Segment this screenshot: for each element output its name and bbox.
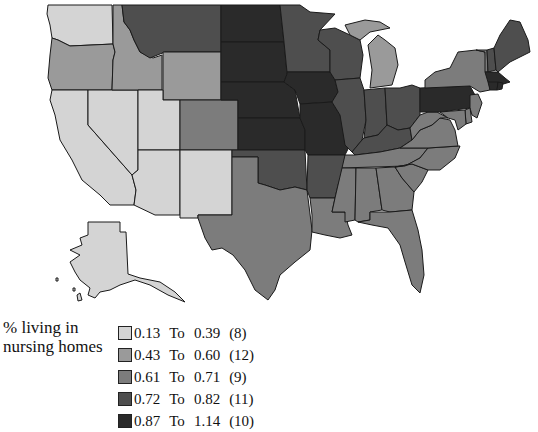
legend-item: 0.61 To 0.71 (9): [118, 366, 254, 388]
state-NM: [180, 150, 232, 218]
legend-low: 0.61: [134, 369, 160, 386]
legend-count: (8): [229, 325, 247, 342]
legend-swatch: [118, 370, 132, 384]
us-choropleth-map: [0, 0, 538, 432]
legend-to: To: [169, 413, 185, 430]
legend-low: 0.87: [134, 413, 160, 430]
legend-item: 0.43 To 0.60 (12): [118, 344, 254, 366]
state-RI: [497, 82, 503, 90]
legend-high: 1.14: [194, 413, 220, 430]
state-SD: [221, 42, 287, 82]
legend-count: (10): [229, 413, 254, 430]
legend: 0.13 To 0.39 (8) 0.43 To 0.60 (12) 0.61 …: [118, 322, 254, 432]
state-HI: [56, 278, 82, 301]
legend-high: 0.60: [194, 347, 220, 364]
state-KS: [238, 118, 305, 150]
state-ME: [494, 20, 530, 72]
legend-title-line2: nursing homes: [3, 337, 103, 356]
legend-title: % living in nursing homes: [3, 318, 103, 356]
state-NY: [425, 50, 490, 92]
state-PA: [420, 86, 475, 112]
legend-swatch: [118, 348, 132, 362]
legend-item: 0.72 To 0.82 (11): [118, 388, 254, 410]
state-WY: [163, 52, 221, 100]
legend-low: 0.72: [134, 391, 160, 408]
legend-count: (11): [229, 391, 253, 408]
legend-high: 0.82: [194, 391, 220, 408]
legend-count: (9): [229, 369, 247, 386]
legend-high: 0.39: [194, 325, 220, 342]
legend-swatch: [118, 392, 132, 406]
legend-title-line1: % living in: [3, 318, 103, 337]
state-FL: [358, 210, 424, 293]
legend-swatch: [118, 326, 132, 340]
legend-low: 0.43: [134, 347, 160, 364]
legend-high: 0.71: [194, 369, 220, 386]
state-NJ: [470, 94, 482, 118]
legend-to: To: [169, 347, 185, 364]
legend-to: To: [169, 391, 185, 408]
legend-item: 0.13 To 0.39 (8): [118, 322, 254, 344]
legend-low: 0.13: [134, 325, 160, 342]
state-AZ: [132, 150, 180, 215]
legend-item: 0.87 To 1.14 (10): [118, 410, 254, 432]
legend-to: To: [169, 325, 185, 342]
legend-swatch: [118, 414, 132, 428]
state-ND: [221, 5, 284, 42]
state-OR: [48, 38, 115, 90]
legend-to: To: [169, 369, 185, 386]
state-CT: [488, 82, 498, 90]
legend-count: (12): [229, 347, 254, 364]
state-CO: [180, 100, 238, 150]
state-AK: [70, 222, 185, 302]
